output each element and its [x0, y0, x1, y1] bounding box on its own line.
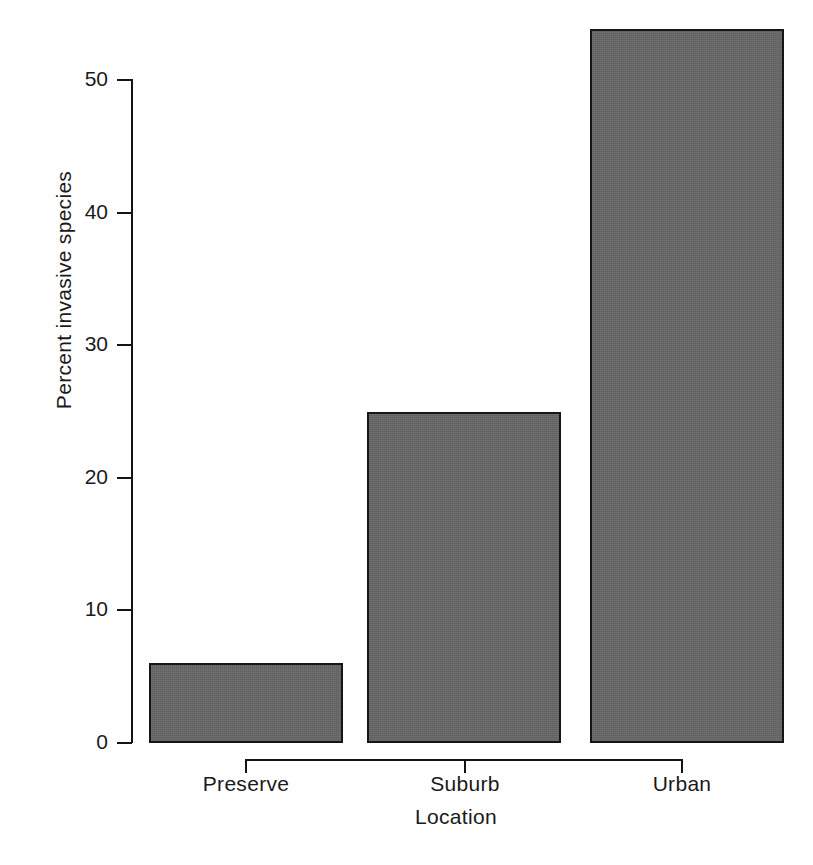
x-tick-mark [245, 759, 247, 773]
y-tick-mark [117, 79, 132, 81]
y-tick-label: 20 [48, 466, 108, 487]
x-tick-label-suburb: Suburb [355, 772, 575, 796]
y-tick-label: 10 [48, 598, 108, 619]
bar-suburb [367, 412, 561, 743]
x-tick-mark [464, 759, 466, 773]
y-tick-label: 30 [48, 333, 108, 354]
y-tick-label: 40 [48, 201, 108, 222]
x-axis-title: Location [131, 805, 781, 829]
x-tick-mark [681, 759, 683, 773]
bar-urban [590, 29, 784, 743]
y-tick-mark [117, 477, 132, 479]
y-tick-mark [117, 344, 132, 346]
y-tick-mark [117, 609, 132, 611]
x-tick-label-preserve: Preserve [136, 772, 356, 796]
y-tick-mark [117, 212, 132, 214]
y-tick-label: 0 [48, 731, 108, 752]
x-tick-label-urban: Urban [572, 772, 792, 796]
y-axis-line [131, 79, 133, 743]
bar-preserve [149, 663, 343, 743]
bar-chart: Percent invasive species 0 10 20 30 40 5… [0, 0, 813, 865]
y-tick-mark [117, 742, 132, 744]
y-tick-label: 50 [48, 68, 108, 89]
